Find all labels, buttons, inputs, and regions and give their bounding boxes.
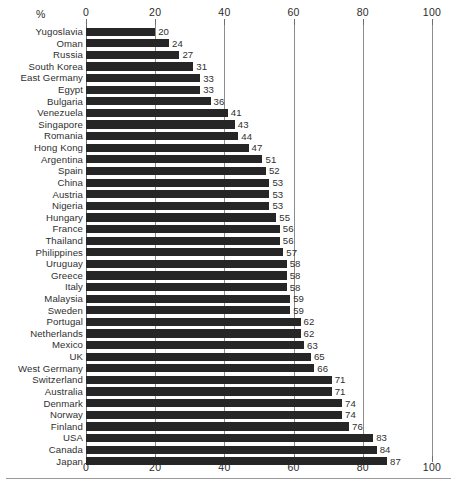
bar-row: UK65 bbox=[0, 351, 457, 363]
bar-value-label: 55 bbox=[279, 212, 290, 223]
bar-track: 58 bbox=[86, 260, 432, 268]
bar-row: Venezuela41 bbox=[0, 107, 457, 119]
bar-track: 51 bbox=[86, 155, 432, 163]
bar-track: 71 bbox=[86, 376, 432, 384]
x-tick-label: 60 bbox=[287, 6, 299, 18]
bar bbox=[86, 237, 280, 245]
bar-row: West Germany66 bbox=[0, 363, 457, 375]
category-label: Finland bbox=[0, 421, 83, 432]
bar bbox=[86, 248, 283, 256]
bar-row: Uruguay58 bbox=[0, 258, 457, 270]
bar-row: Portugal62 bbox=[0, 316, 457, 328]
bar-value-label: 51 bbox=[265, 154, 276, 165]
bar-value-label: 83 bbox=[376, 432, 387, 443]
bar-chart: % 020406080100 020406080100 Yugoslavia20… bbox=[0, 0, 457, 485]
category-label: Spain bbox=[0, 165, 83, 176]
bar-value-label: 44 bbox=[241, 131, 252, 142]
tick-mark bbox=[432, 19, 433, 25]
bar-value-label: 33 bbox=[203, 73, 214, 84]
bar bbox=[86, 411, 342, 419]
bar-value-label: 24 bbox=[172, 38, 183, 49]
x-tick-label: 0 bbox=[83, 6, 89, 18]
category-label: France bbox=[0, 223, 83, 234]
bar-value-label: 27 bbox=[182, 49, 193, 60]
bar-row: China53 bbox=[0, 177, 457, 189]
bar-value-label: 43 bbox=[238, 119, 249, 130]
bar bbox=[86, 457, 387, 465]
x-tick-label: 100 bbox=[423, 6, 441, 18]
category-label: Thailand bbox=[0, 235, 83, 246]
bar bbox=[86, 446, 377, 454]
bar-track: 58 bbox=[86, 283, 432, 291]
bar-value-label: 74 bbox=[345, 398, 356, 409]
category-label: Canada bbox=[0, 444, 83, 455]
category-label: Austria bbox=[0, 189, 83, 200]
category-label: Egypt bbox=[0, 84, 83, 95]
bar-value-label: 47 bbox=[252, 142, 263, 153]
category-label: Norway bbox=[0, 409, 83, 420]
footer-divider bbox=[6, 478, 451, 479]
category-label: Italy bbox=[0, 281, 83, 292]
bar bbox=[86, 271, 287, 279]
bar-row: Australia71 bbox=[0, 386, 457, 398]
category-label: Greece bbox=[0, 270, 83, 281]
bar-row: Netherlands62 bbox=[0, 328, 457, 340]
category-label: Sweden bbox=[0, 305, 83, 316]
tick-mark bbox=[86, 19, 87, 25]
bar-track: 55 bbox=[86, 213, 432, 221]
bar-track: 36 bbox=[86, 97, 432, 105]
category-label: Hong Kong bbox=[0, 142, 83, 153]
bar-track: 33 bbox=[86, 86, 432, 94]
bar-row: France56 bbox=[0, 223, 457, 235]
bar-value-label: 52 bbox=[269, 165, 280, 176]
bar-row: Italy58 bbox=[0, 281, 457, 293]
bar-track: 62 bbox=[86, 329, 432, 337]
bar-row: Oman24 bbox=[0, 38, 457, 50]
category-label: Switzerland bbox=[0, 374, 83, 385]
bar bbox=[86, 120, 235, 128]
category-label: China bbox=[0, 177, 83, 188]
bar bbox=[86, 434, 373, 442]
bar-row: Finland76 bbox=[0, 421, 457, 433]
bar-row: Hong Kong47 bbox=[0, 142, 457, 154]
category-label: West Germany bbox=[0, 363, 83, 374]
bar-value-label: 62 bbox=[304, 316, 315, 327]
bar-value-label: 58 bbox=[290, 282, 301, 293]
bar-track: 56 bbox=[86, 225, 432, 233]
bar-row: Mexico63 bbox=[0, 339, 457, 351]
bar bbox=[86, 213, 276, 221]
bar-row: Yugoslavia20 bbox=[0, 26, 457, 38]
x-tick-label: 20 bbox=[149, 6, 161, 18]
bar-track: 53 bbox=[86, 202, 432, 210]
bar-value-label: 57 bbox=[286, 247, 297, 258]
bar-value-label: 36 bbox=[214, 96, 225, 107]
bar bbox=[86, 283, 287, 291]
bar-row: Philippines57 bbox=[0, 247, 457, 259]
bar bbox=[86, 422, 349, 430]
bar-track: 20 bbox=[86, 28, 432, 36]
category-label: Netherlands bbox=[0, 328, 83, 339]
bar-track: 31 bbox=[86, 62, 432, 70]
bar bbox=[86, 155, 262, 163]
bar-row: Romania44 bbox=[0, 130, 457, 142]
bar-track: 58 bbox=[86, 271, 432, 279]
x-tick-label: 80 bbox=[357, 6, 369, 18]
bar-value-label: 76 bbox=[352, 421, 363, 432]
bar-track: 74 bbox=[86, 399, 432, 407]
category-label: Philippines bbox=[0, 247, 83, 258]
bar-row: Bulgaria36 bbox=[0, 96, 457, 108]
bar-value-label: 41 bbox=[231, 107, 242, 118]
bar-track: 47 bbox=[86, 144, 432, 152]
bar bbox=[86, 132, 238, 140]
bar-value-label: 62 bbox=[304, 328, 315, 339]
bar-track: 53 bbox=[86, 179, 432, 187]
category-label: Japan bbox=[0, 456, 83, 467]
category-label: Nigeria bbox=[0, 200, 83, 211]
bar-track: 59 bbox=[86, 306, 432, 314]
bar-value-label: 33 bbox=[203, 84, 214, 95]
x-tick-label: 40 bbox=[218, 6, 230, 18]
bar-row: Japan87 bbox=[0, 456, 457, 468]
bar-row: Switzerland71 bbox=[0, 374, 457, 386]
bar-value-label: 74 bbox=[345, 409, 356, 420]
bar-track: 74 bbox=[86, 411, 432, 419]
